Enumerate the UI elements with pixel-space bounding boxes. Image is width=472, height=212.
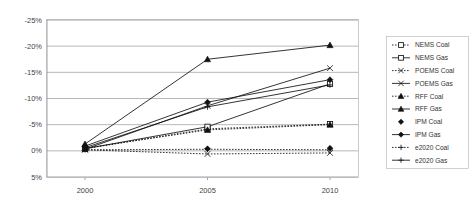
legend-label: POEMS Gas bbox=[415, 80, 453, 87]
series-nems-gas bbox=[82, 81, 332, 151]
legend-label: RFF Gas bbox=[415, 105, 442, 112]
legend-item-nems-coal[interactable]: NEMS Coal bbox=[392, 41, 450, 48]
chart-container: -25%-20%-15%-10%-5%0%5% 200020052010 NEM… bbox=[0, 0, 472, 212]
legend-label: RFF Coal bbox=[415, 93, 444, 100]
legend-label: POEMS Coal bbox=[415, 67, 455, 74]
line-chart: -25%-20%-15%-10%-5%0%5% 200020052010 NEM… bbox=[0, 0, 472, 212]
legend-label: IPM Gas bbox=[415, 131, 441, 138]
x-tick-label: 2000 bbox=[77, 186, 94, 195]
series-ipm-gas bbox=[82, 77, 333, 149]
x-tick-label: 2005 bbox=[199, 186, 216, 195]
legend-label: IPM Coal bbox=[415, 118, 443, 125]
x-axis-tick-labels: 200020052010 bbox=[77, 177, 339, 195]
legend-item-nems-gas[interactable]: NEMS Gas bbox=[392, 54, 449, 61]
series-e2020-gas bbox=[82, 82, 333, 151]
legend-label: NEMS Gas bbox=[415, 54, 449, 61]
y-tick-label: -15% bbox=[24, 68, 42, 77]
legend-label: e2020 Gas bbox=[415, 157, 448, 164]
y-tick-label: 0% bbox=[31, 146, 42, 155]
y-tick-label: -5% bbox=[29, 120, 43, 129]
x-tick-label: 2010 bbox=[322, 186, 339, 195]
y-tick-label: -10% bbox=[24, 94, 42, 103]
y-axis-tick-labels: -25%-20%-15%-10%-5%0%5% bbox=[24, 16, 42, 182]
legend-label: e2020 Coal bbox=[415, 144, 449, 151]
series-line bbox=[85, 85, 330, 148]
series-line bbox=[85, 84, 330, 149]
y-tick-label: 5% bbox=[31, 173, 42, 182]
y-tick-label: -25% bbox=[24, 16, 42, 25]
y-tick-label: -20% bbox=[24, 42, 42, 51]
series-layer bbox=[82, 42, 333, 157]
series-e2020-coal bbox=[82, 146, 333, 152]
legend-label: NEMS Coal bbox=[415, 41, 450, 48]
